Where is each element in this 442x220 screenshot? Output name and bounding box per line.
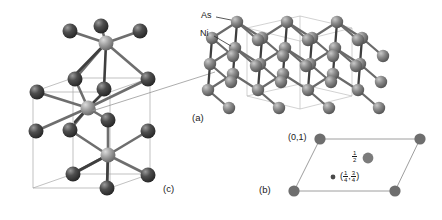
atom-as bbox=[375, 76, 387, 88]
atom-as bbox=[273, 102, 285, 114]
atom-as bbox=[227, 50, 239, 62]
atom-ni bbox=[204, 58, 216, 70]
atom-as bbox=[63, 24, 78, 39]
atom-ni bbox=[352, 84, 364, 96]
atom-as bbox=[63, 123, 78, 138]
atom-as bbox=[100, 181, 115, 196]
panel-b-half-height-atom bbox=[363, 153, 374, 164]
atom-as bbox=[331, 16, 343, 28]
label-ni: Ni bbox=[200, 29, 209, 38]
atom-as bbox=[97, 82, 112, 97]
atom-as bbox=[141, 124, 156, 139]
panel-b-corner-atom bbox=[389, 185, 400, 196]
panel-b-corner-label: (0,1) bbox=[288, 133, 307, 142]
atom-as bbox=[68, 72, 83, 87]
atom-as bbox=[325, 76, 337, 88]
atom-ni bbox=[101, 148, 116, 163]
atom-as bbox=[275, 76, 287, 88]
atom-ni bbox=[81, 101, 96, 116]
panel-b-quarter-site-atom bbox=[331, 175, 336, 180]
atom-as bbox=[141, 168, 156, 183]
label-as: As bbox=[201, 11, 212, 20]
atom-as bbox=[133, 24, 148, 39]
atom-as bbox=[66, 167, 81, 182]
atom-as bbox=[231, 16, 243, 28]
atom-as bbox=[252, 34, 264, 46]
panel-a-label: (a) bbox=[192, 113, 204, 123]
atom-as bbox=[373, 102, 385, 114]
panel-b-corner-atom bbox=[414, 133, 425, 144]
atom-ni bbox=[302, 84, 314, 96]
atom-as bbox=[300, 60, 312, 72]
panel-b-corner-atom bbox=[314, 133, 325, 144]
atom-ni bbox=[202, 84, 214, 96]
atom-as bbox=[323, 102, 335, 114]
panel-a-structure bbox=[202, 16, 389, 114]
atom-as bbox=[327, 50, 339, 62]
panel-b-label: (b) bbox=[259, 185, 271, 195]
panel-b-half-label: 1 2 bbox=[352, 150, 357, 164]
panel-b-quarter-label: ( 1 4 , 3 4 ) bbox=[340, 170, 359, 184]
panel-c-structure bbox=[29, 19, 156, 196]
atom-as bbox=[352, 34, 364, 46]
atom-as bbox=[29, 124, 44, 139]
atom-ni bbox=[252, 84, 264, 96]
atom-as bbox=[281, 16, 293, 28]
atom-ni bbox=[99, 36, 114, 51]
atom-as bbox=[141, 72, 156, 87]
fraction-one-half: 1 2 bbox=[352, 150, 357, 164]
atom-as bbox=[302, 34, 314, 46]
atom-as bbox=[94, 19, 109, 34]
atom-as bbox=[250, 60, 262, 72]
panel-b-structure bbox=[288, 133, 425, 196]
atom-as bbox=[101, 113, 116, 128]
atom-as bbox=[30, 85, 45, 100]
atom-as bbox=[377, 50, 389, 62]
atom-as bbox=[277, 50, 289, 62]
panel-b-corner-atom bbox=[288, 185, 299, 196]
panel-c-label: (c) bbox=[163, 184, 174, 194]
atom-as bbox=[350, 60, 362, 72]
panel-c-cell-edges bbox=[33, 78, 150, 188]
figure-canvas: As Ni (a) (c) (b) (0,1) 1 2 ( 1 4 , 3 4 … bbox=[0, 0, 442, 220]
atom-as bbox=[223, 102, 235, 114]
crystal-structure-svg bbox=[0, 0, 442, 220]
atom-as bbox=[225, 76, 237, 88]
